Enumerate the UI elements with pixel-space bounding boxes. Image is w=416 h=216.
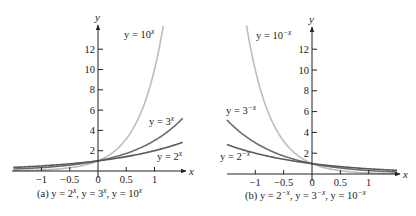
x-tick-label: 1 xyxy=(152,174,157,185)
x-tick-label: −0.5 xyxy=(274,177,293,188)
panel-a-caption: (a) y = 2x, y = 3x, y = 10x xyxy=(37,186,143,200)
y-tick-label: 4 xyxy=(90,125,96,136)
panel-b-x-axis-label: x xyxy=(402,168,408,180)
panel-a-y-ticks: 24681012 xyxy=(85,44,104,157)
panel-a-label-10x: y = 10x xyxy=(124,27,155,40)
panel-b-label-2-neg-x: y = 2−x xyxy=(220,149,251,162)
y-tick-label: 12 xyxy=(85,44,96,55)
figure: −1−0.500.51 24681012 y x y = 10x y = 3x … xyxy=(0,0,416,216)
panel-a-label-2x: y = 2x xyxy=(157,149,183,162)
panel-b-label-10-neg-x: y = 10−x xyxy=(256,28,292,41)
x-tick-label: 0.5 xyxy=(334,177,347,188)
x-tick-label: 0 xyxy=(95,174,100,185)
y-tick-label: 2 xyxy=(304,148,309,159)
panel-a-x-axis-label: x xyxy=(188,165,194,177)
panel-b-label-3-neg-x: y = 3−x xyxy=(226,103,257,116)
y-tick-label: 6 xyxy=(304,106,309,117)
panel-a-y-axis-label: y xyxy=(94,11,100,23)
x-tick-label: −0.5 xyxy=(60,174,79,185)
x-tick-label: −1 xyxy=(36,174,47,185)
panel-a-exponential-growth: −1−0.500.51 24681012 y x y = 10x y = 3x … xyxy=(12,11,194,200)
curve-y-10-x xyxy=(247,25,398,173)
panel-b-exponential-decay: −1−0.500.51 24681012 y x y = 10−x y = 3−… xyxy=(220,13,408,202)
panel-b-caption: (b) y = 2−x, y = 3−x, y = 10−x xyxy=(245,188,366,202)
y-tick-label: 10 xyxy=(299,65,310,76)
x-tick-label: 1 xyxy=(366,177,371,188)
y-tick-label: 8 xyxy=(304,85,309,96)
y-tick-label: 12 xyxy=(299,44,310,55)
y-tick-label: 4 xyxy=(304,127,310,138)
x-tick-label: 0.5 xyxy=(120,174,133,185)
panel-b-y-ticks: 24681012 xyxy=(299,44,318,159)
y-tick-label: 8 xyxy=(90,84,95,95)
x-tick-label: 0 xyxy=(309,177,314,188)
y-tick-label: 10 xyxy=(85,64,96,75)
panel-b-y-axis-label: y xyxy=(308,13,314,25)
x-tick-label: −1 xyxy=(250,177,261,188)
panel-a-label-3x: y = 3x xyxy=(149,114,175,127)
y-tick-label: 6 xyxy=(90,105,95,116)
y-tick-label: 2 xyxy=(90,145,95,156)
